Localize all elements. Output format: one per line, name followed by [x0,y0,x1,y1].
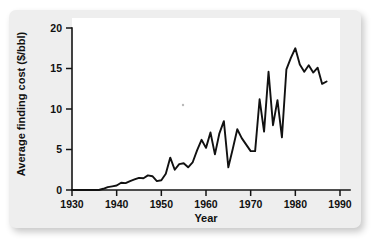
x-tick-label: 1980 [284,198,308,210]
x-axis-title: Year [194,212,218,224]
x-tick-label: 1930 [60,198,84,210]
x-axis-ticks: 1930194019501960197019801990 [60,190,352,210]
x-tick-label: 1970 [239,198,263,210]
y-tick-label: 5 [56,143,62,155]
y-tick-label: 0 [56,184,62,196]
x-tick-label: 1960 [194,198,218,210]
y-axis-title: Average finding cost ($/bbl) [15,31,27,176]
y-tick-label: 20 [50,22,62,34]
chart-container: 05101520 1930194019501960197019801990 Av… [9,10,361,228]
y-tick-label: 10 [50,103,62,115]
x-tick-label: 1940 [105,198,129,210]
scan-speck [182,104,184,106]
x-tick-label: 1950 [150,198,174,210]
y-tick-label: 15 [50,62,62,74]
x-tick-label: 1990 [328,198,352,210]
y-axis-ticks: 05101520 [50,22,72,196]
line-chart: 05101520 1930194019501960197019801990 Av… [9,10,361,228]
plot-area-background [72,18,340,190]
figure-card: 05101520 1930194019501960197019801990 Av… [9,10,361,228]
